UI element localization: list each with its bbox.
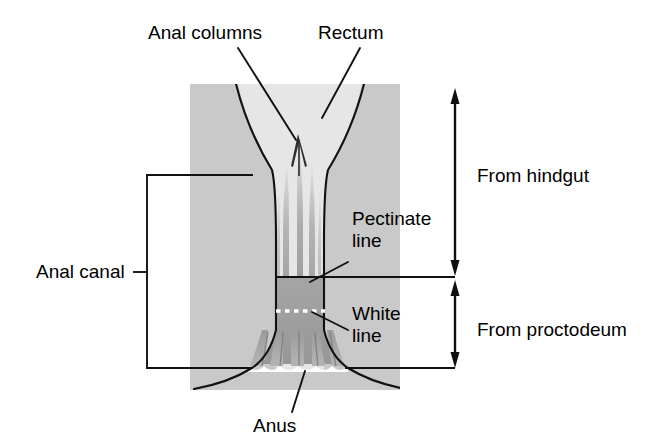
label-pectinate-line: Pectinate line — [352, 208, 431, 252]
anal-canal-diagram — [0, 0, 660, 446]
anatomy-figure: Anal columns Rectum Pectinate line White… — [0, 0, 660, 446]
from-proctodeum-arrow — [451, 280, 460, 368]
label-from-hindgut: From hindgut — [477, 165, 589, 187]
label-anal-columns: Anal columns — [148, 22, 262, 44]
label-from-proctodeum: From proctodeum — [477, 319, 627, 341]
label-anal-canal: Anal canal — [36, 261, 125, 283]
label-rectum: Rectum — [318, 22, 383, 44]
label-anus: Anus — [253, 415, 296, 437]
from-hindgut-arrow — [451, 88, 460, 276]
label-white-line: White line — [352, 303, 401, 347]
